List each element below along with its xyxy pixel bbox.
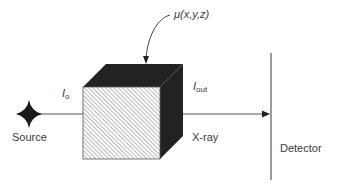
i0-label: Io xyxy=(62,87,70,101)
iout-label: Iout xyxy=(193,80,207,94)
star-source-icon xyxy=(16,100,42,128)
mu-arrow-head-icon xyxy=(143,56,149,64)
cube-front-face xyxy=(83,87,160,159)
xray-diagram xyxy=(0,0,337,185)
mu-label: μ(x,y,z) xyxy=(174,8,209,20)
detector-label: Detector xyxy=(280,142,322,154)
source-label: Source xyxy=(12,131,47,143)
xray-label: X-ray xyxy=(192,131,218,143)
arrow-head-icon xyxy=(262,111,270,118)
mu-pointer-arrow xyxy=(146,15,170,58)
